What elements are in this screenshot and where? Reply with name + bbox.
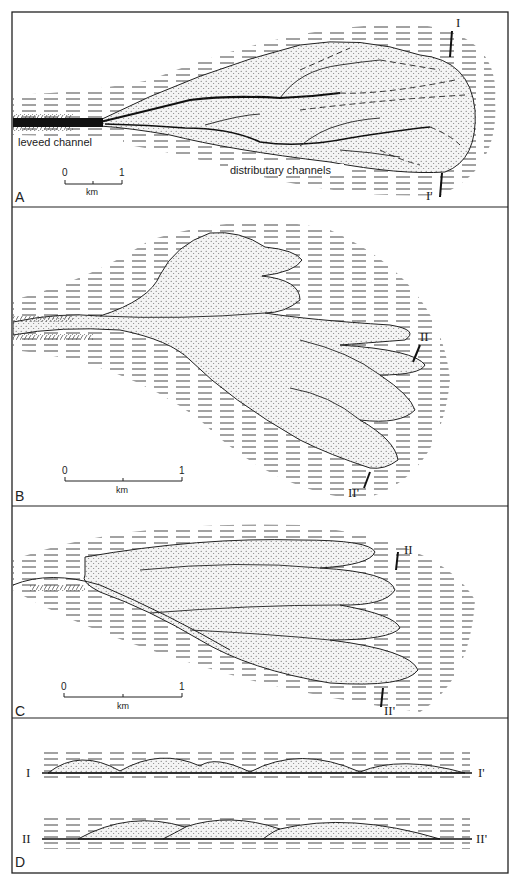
distributary-channels-label: distributary channels [230,164,331,176]
panel-label-d: D [15,854,25,870]
lobe-diagram: leveed channel distributary channels I I… [0,0,523,879]
section-ii-label: II [420,329,429,344]
svg-text:I: I [26,765,30,780]
sand-lobe [100,42,475,173]
svg-text:km: km [116,485,128,495]
panel-label-a: A [15,189,25,205]
panel-label-b: B [15,488,24,504]
section-i-label: I [456,15,460,30]
svg-text:II: II [22,831,31,846]
scale-bar-c: 0 1 km [61,681,185,711]
svg-text:km: km [117,701,129,711]
svg-text:0: 0 [61,681,67,692]
svg-text:0: 0 [62,167,68,178]
section-ii-label-c: II [404,542,413,557]
panel-d: I I' II II' [22,750,487,849]
section-i-prime-label: I' [426,188,433,203]
panel-label-c: C [15,703,25,719]
svg-text:II': II' [476,831,487,846]
svg-text:0: 0 [62,465,68,476]
svg-text:1: 1 [179,681,185,692]
section-ii-prime-label-c: II' [384,703,395,718]
svg-text:1: 1 [179,465,185,476]
panel-b [13,222,450,500]
svg-text:I': I' [478,765,485,780]
leveed-channel-label: leveed channel [18,136,92,148]
scale-bar-b: 0 1 km [62,465,185,495]
scale-bar-a: 0 1 km [62,167,125,197]
svg-text:km: km [86,187,98,197]
svg-text:1: 1 [119,167,125,178]
section-ii-prime-label: II' [348,485,359,500]
leveed-channel [13,118,103,127]
